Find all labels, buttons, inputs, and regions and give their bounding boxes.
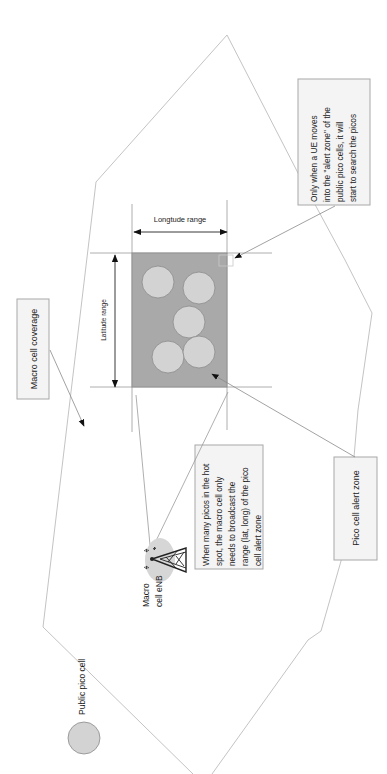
macro-enb-label-line2: cell eNB xyxy=(154,575,164,607)
public-pico-cell-legend-icon xyxy=(68,722,100,754)
svg-text:Only when a UE moves: Only when a UE moves xyxy=(309,115,319,202)
latitude-range-label: Latitude range xyxy=(100,299,108,341)
public-pico-cell-legend-label: Public pico cell xyxy=(77,659,87,715)
macro-enb-label-line1: Macro xyxy=(141,583,151,607)
svg-text:start to search the picos: start to search the picos xyxy=(348,114,358,202)
svg-text:needs to broadcast the: needs to broadcast the xyxy=(227,481,237,566)
svg-text:cell alert zone: cell alert zone xyxy=(253,514,263,566)
macro-enb-tower-icon xyxy=(144,538,186,582)
diagram-canvas: Longtude range Latitude range Macro cell… xyxy=(0,0,387,774)
macro-cell-boundary-left-lower xyxy=(43,627,193,774)
pico-cell xyxy=(152,341,184,373)
pico-cell xyxy=(183,336,215,368)
svg-text:public pico cells, it will: public pico cells, it will xyxy=(335,121,345,202)
macro-cell-coverage-pointer xyxy=(50,350,84,426)
macro-cell-coverage-label: Macro cell coverage xyxy=(29,309,39,390)
enb-link-left xyxy=(136,395,150,545)
svg-text:When many picos in the hot: When many picos in the hot xyxy=(201,463,211,566)
svg-text:range (lat, long) of the pico: range (lat, long) of the pico xyxy=(240,467,250,566)
svg-text:spot, the macro cell only: spot, the macro cell only xyxy=(214,476,224,566)
ue-note-pointer xyxy=(235,206,335,258)
svg-text:into the "alert zone" of the: into the "alert zone" of the xyxy=(322,107,332,202)
pico-cell xyxy=(183,272,215,304)
pico-cell xyxy=(173,306,205,338)
longitude-range-label: Longtude range xyxy=(154,215,207,224)
pico-alert-zone-label: Pico cell alert zone xyxy=(351,470,361,546)
pico-cell xyxy=(142,266,174,298)
